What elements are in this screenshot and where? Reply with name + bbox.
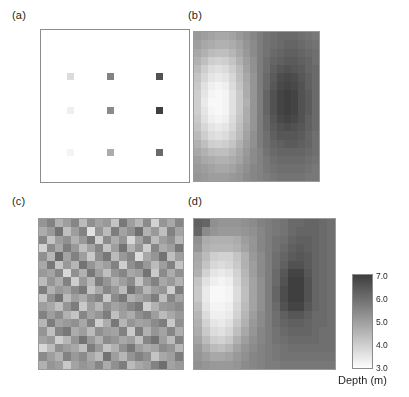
colorbar-tick-labels: 7.0 6.0 5.0 4.0 3.0 (376, 274, 406, 369)
colorbar-tick-5: 5.0 (376, 318, 388, 327)
panel-b-kriged-surface[interactable] (193, 31, 320, 182)
figure-depth-maps: (a) (b) (c) (d) 7.0 6.0 5.0 4.0 3.0 Dept… (0, 0, 409, 397)
panel-b-canvas (194, 32, 319, 181)
panel-label-a: (a) (12, 10, 26, 21)
colorbar-canvas (353, 275, 372, 368)
panel-d-simulated-surface[interactable] (193, 218, 336, 370)
colorbar-gradient[interactable] (352, 274, 373, 369)
panel-label-b: (b) (188, 10, 202, 21)
colorbar: 7.0 6.0 5.0 4.0 3.0 Depth (m) (352, 274, 408, 384)
colorbar-tick-3: 3.0 (376, 364, 388, 373)
panel-c-noise-field[interactable] (38, 218, 184, 370)
panel-a-canvas (41, 30, 189, 182)
panel-d-canvas (194, 219, 335, 369)
panel-c-canvas (39, 219, 183, 369)
panel-a-sample-locations[interactable] (40, 29, 190, 183)
colorbar-tick-4: 4.0 (376, 341, 388, 350)
panel-label-d: (d) (188, 196, 202, 207)
colorbar-tick-6: 6.0 (376, 295, 388, 304)
colorbar-tick-7: 7.0 (376, 272, 388, 281)
colorbar-title: Depth (m) (338, 375, 387, 386)
panel-label-c: (c) (12, 196, 25, 207)
